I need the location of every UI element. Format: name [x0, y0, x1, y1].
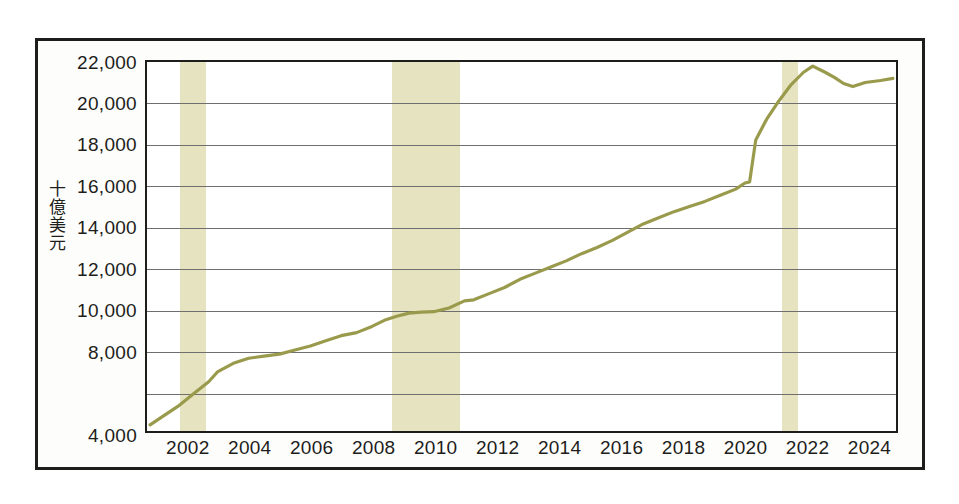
y-tick-label-12000: 12,000: [77, 259, 137, 281]
x-tick-label-2024: 2024: [848, 437, 891, 459]
x-tick-label-2008: 2008: [352, 437, 395, 459]
y-tick-label-8000: 8,000: [88, 342, 137, 364]
y-tick-label-18000: 18,000: [77, 134, 137, 156]
y-tick-label-22000: 22,000: [77, 52, 137, 74]
series-plot: [147, 62, 896, 431]
x-tick-label-2020: 2020: [724, 437, 767, 459]
x-tick-label-2002: 2002: [166, 437, 209, 459]
y-tick-label-10000: 10,000: [77, 300, 137, 322]
plot-inner: [147, 62, 896, 431]
y-tick-label-14000: 14,000: [77, 217, 137, 239]
x-tick-label-2010: 2010: [414, 437, 457, 459]
figure-frame: 十 億 美 元 4,0008,00010,00012,00014,00016,0…: [35, 38, 925, 470]
x-tick-label-2022: 2022: [786, 437, 829, 459]
plot-box: [145, 60, 898, 433]
y-tick-label-20000: 20,000: [77, 93, 137, 115]
x-tick-label-2018: 2018: [662, 437, 705, 459]
series-line: [150, 66, 893, 425]
x-tick-label-2004: 2004: [228, 437, 271, 459]
x-tick-label-2016: 2016: [600, 437, 643, 459]
x-tick-label-2012: 2012: [476, 437, 519, 459]
y-axis-tick-labels: 4,0008,00010,00012,00014,00016,00018,000…: [38, 41, 143, 473]
chart-area: 十 億 美 元 4,0008,00010,00012,00014,00016,0…: [38, 41, 928, 473]
y-tick-label-16000: 16,000: [77, 176, 137, 198]
x-tick-label-2014: 2014: [538, 437, 581, 459]
y-tick-label-4000: 4,000: [88, 425, 137, 447]
x-tick-label-2006: 2006: [290, 437, 333, 459]
x-axis-tick-labels: 2002200420062008201020122014201620182020…: [145, 437, 898, 471]
